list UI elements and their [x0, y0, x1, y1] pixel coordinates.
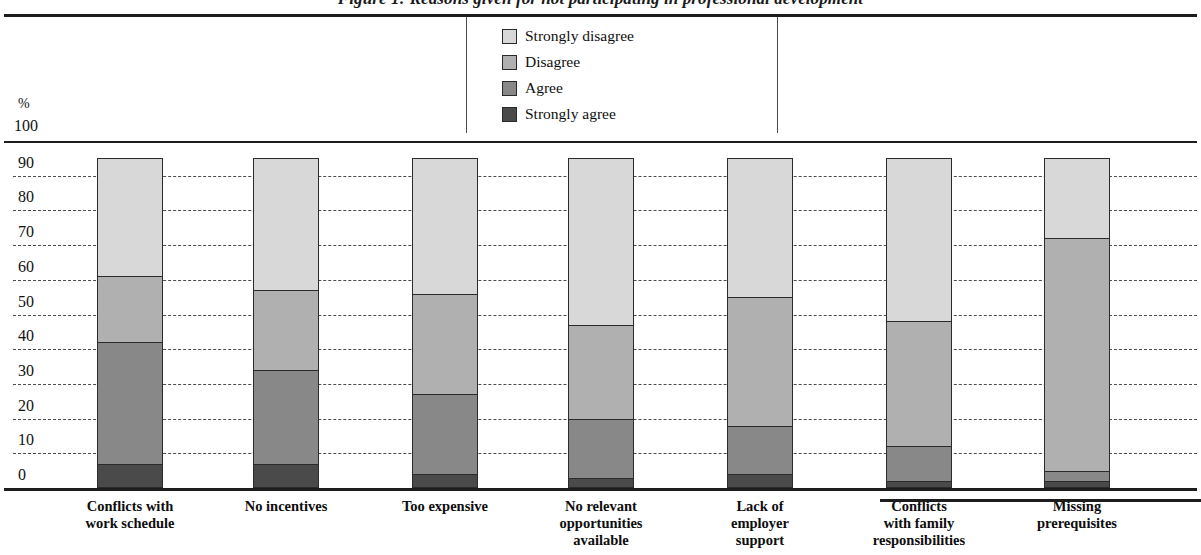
- legend-label: Agree: [525, 79, 563, 97]
- x-axis-label-line: Conflicts with: [55, 498, 205, 515]
- x-axis-label: Too expensive: [370, 498, 520, 515]
- x-axis-label-line: Lack of: [685, 498, 835, 515]
- x-axis-label: Missingprerequisites: [1002, 498, 1152, 532]
- x-axis-label-line: Too expensive: [370, 498, 520, 515]
- bar-segment[interactable]: [1044, 481, 1110, 488]
- bar-segment[interactable]: [886, 321, 952, 446]
- bar-segment[interactable]: [97, 464, 163, 488]
- bar-segment[interactable]: [886, 446, 952, 481]
- x-axis-label: No incentives: [211, 498, 361, 515]
- legend-divider-left: [466, 17, 467, 133]
- bar-segment[interactable]: [727, 158, 793, 297]
- x-axis-label: Conflictswith familyresponsibilities: [844, 498, 994, 549]
- bar-segment[interactable]: [1044, 158, 1110, 238]
- chart-page: Figure 1: Reasons given for not particip…: [0, 0, 1201, 555]
- legend-swatch-icon: [502, 29, 517, 44]
- legend-label: Strongly agree: [525, 105, 616, 123]
- bar-segment[interactable]: [727, 474, 793, 488]
- legend-item: Disagree: [502, 49, 634, 75]
- bar-segment[interactable]: [97, 276, 163, 342]
- legend-label: Disagree: [525, 53, 580, 71]
- legend-divider-right: [777, 17, 778, 133]
- legend-items: Strongly disagreeDisagreeAgreeStrongly a…: [502, 23, 634, 127]
- bar-column[interactable]: [97, 158, 163, 488]
- x-axis-labels: Conflicts withwork scheduleNo incentives…: [0, 498, 1201, 555]
- legend: Strongly disagreeDisagreeAgreeStrongly a…: [466, 17, 778, 133]
- x-axis-label-line: No incentives: [211, 498, 361, 515]
- plot-area: 9080706050403020100: [4, 141, 1197, 490]
- x-axis-label: No relevantopportunitiesavailable: [526, 498, 676, 549]
- bar-column[interactable]: [412, 158, 478, 488]
- bar-segment[interactable]: [97, 158, 163, 276]
- bar-segment[interactable]: [253, 158, 319, 290]
- bar-segment[interactable]: [568, 478, 634, 488]
- x-axis-label-line: with family: [844, 515, 994, 532]
- bar-segment[interactable]: [253, 290, 319, 370]
- x-axis-label-line: available: [526, 532, 676, 549]
- bar-segment[interactable]: [412, 474, 478, 488]
- bar-segment[interactable]: [412, 394, 478, 474]
- bars-layer: [4, 141, 1197, 488]
- bar-segment[interactable]: [412, 158, 478, 293]
- y-tick-100: 100: [14, 118, 38, 134]
- legend-label: Strongly disagree: [525, 27, 634, 45]
- y-axis-unit: %: [18, 96, 30, 112]
- bar-segment[interactable]: [97, 342, 163, 463]
- legend-swatch-icon: [502, 55, 517, 70]
- bar-segment[interactable]: [1044, 471, 1110, 481]
- bar-segment[interactable]: [727, 426, 793, 475]
- x-axis-label-line: support: [685, 532, 835, 549]
- bar-segment[interactable]: [568, 419, 634, 478]
- bar-segment[interactable]: [253, 464, 319, 488]
- bar-segment[interactable]: [253, 370, 319, 464]
- legend-item: Strongly agree: [502, 101, 634, 127]
- bar-column[interactable]: [727, 158, 793, 488]
- axis-bottom-line: [4, 488, 1197, 491]
- x-axis-label: Conflicts withwork schedule: [55, 498, 205, 532]
- legend-item: Agree: [502, 75, 634, 101]
- x-axis-label-line: No relevant: [526, 498, 676, 515]
- bar-segment[interactable]: [568, 325, 634, 419]
- x-axis-label: Lack ofemployersupport: [685, 498, 835, 549]
- bar-segment[interactable]: [886, 481, 952, 488]
- bar-column[interactable]: [568, 158, 634, 488]
- legend-item: Strongly disagree: [502, 23, 634, 49]
- bar-segment[interactable]: [412, 294, 478, 395]
- bar-column[interactable]: [886, 158, 952, 488]
- x-axis-label-line: prerequisites: [1002, 515, 1152, 532]
- bar-segment[interactable]: [886, 158, 952, 321]
- x-axis-label-line: opportunities: [526, 515, 676, 532]
- x-axis-label-line: employer: [685, 515, 835, 532]
- bar-segment[interactable]: [727, 297, 793, 425]
- bar-segment[interactable]: [568, 158, 634, 325]
- chart-title: Figure 1: Reasons given for not particip…: [0, 0, 1201, 9]
- bar-column[interactable]: [1044, 158, 1110, 488]
- legend-swatch-icon: [502, 107, 517, 122]
- bottom-rule: [880, 499, 1201, 502]
- bar-column[interactable]: [253, 158, 319, 488]
- bar-segment[interactable]: [1044, 238, 1110, 470]
- x-axis-label-line: work schedule: [55, 515, 205, 532]
- legend-swatch-icon: [502, 81, 517, 96]
- x-axis-label-line: responsibilities: [844, 532, 994, 549]
